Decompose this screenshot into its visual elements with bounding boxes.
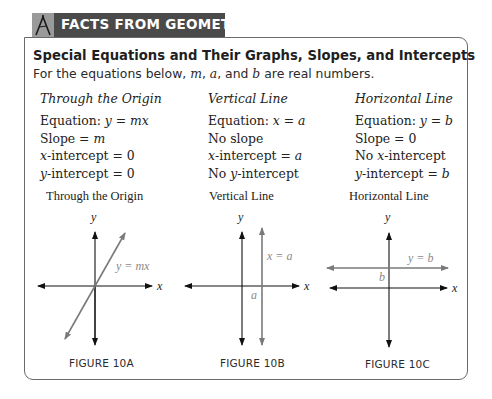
figure-label-10a: FIGURE 10A (69, 357, 134, 369)
figure-label-10b: FIGURE 10B (220, 357, 285, 369)
intercept-label: b (379, 270, 385, 284)
figure-10b: y x x = a a (185, 210, 310, 345)
figure-graphs: y x y = mx y x x = a a y x y = b b (0, 0, 492, 399)
y-axis-label: y (237, 210, 244, 224)
figure-label-10c: FIGURE 10C (365, 358, 430, 370)
x-axis-label: x (303, 279, 310, 293)
line-y-mx-down (65, 286, 95, 339)
line-label: y = mx (115, 259, 150, 273)
x-axis-label: x (156, 279, 163, 293)
y-axis-label: y (384, 210, 391, 224)
y-axis-label: y (90, 210, 97, 224)
line-label: y = b (407, 251, 433, 265)
intercept-label: a (251, 288, 257, 302)
figure-10c: y x y = b b (327, 210, 458, 347)
figure-10a: y x y = mx (38, 210, 163, 345)
line-label: x = a (266, 249, 292, 263)
x-axis-label: x (451, 281, 458, 295)
